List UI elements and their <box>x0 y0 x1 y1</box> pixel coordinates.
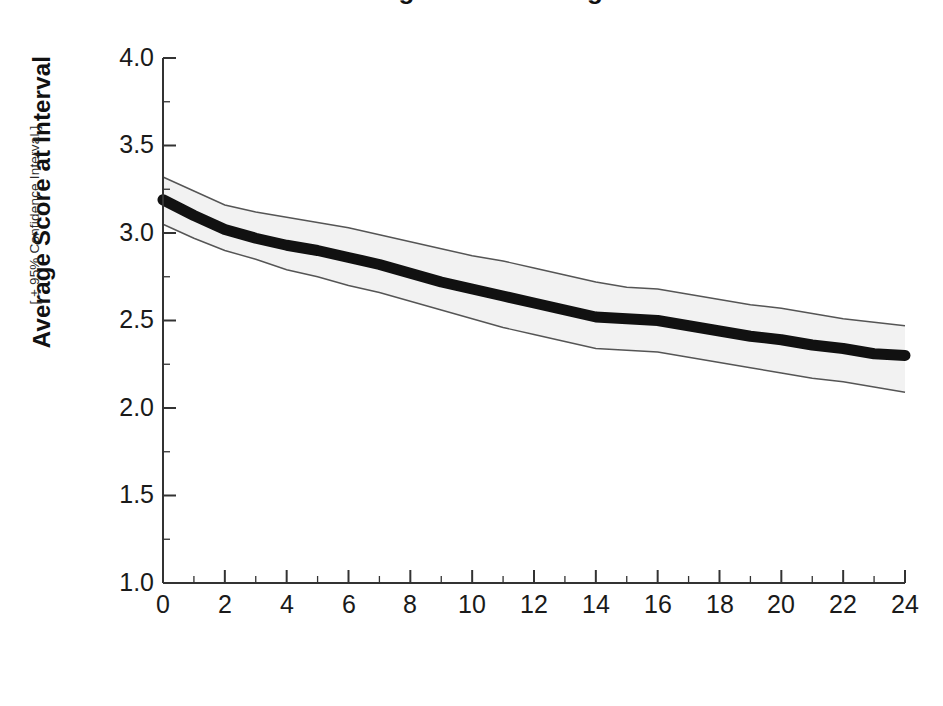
plot-canvas <box>0 0 943 706</box>
confidence-band <box>163 177 905 392</box>
chart-figure: Average Score Change Average Score at In… <box>0 0 943 706</box>
